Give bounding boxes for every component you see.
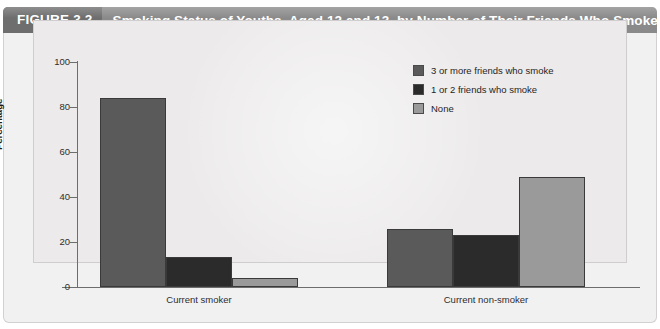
x-axis-category-label: Current smoker bbox=[139, 294, 259, 305]
legend-label: None bbox=[431, 103, 454, 114]
bar bbox=[232, 278, 298, 287]
legend-swatch-icon bbox=[413, 84, 424, 95]
legend-swatch-icon bbox=[413, 65, 424, 76]
bar bbox=[519, 177, 585, 287]
bar bbox=[166, 257, 232, 287]
legend-label: 3 or more friends who smoke bbox=[431, 65, 554, 76]
legend-swatch-icon bbox=[413, 103, 424, 114]
legend-label: 1 or 2 friends who smoke bbox=[431, 84, 537, 95]
bar bbox=[453, 235, 519, 287]
legend-item-3-or-more: 3 or more friends who smoke bbox=[413, 62, 554, 78]
x-axis-line bbox=[62, 287, 640, 288]
bar bbox=[387, 229, 453, 288]
legend-item-1-or-2: 1 or 2 friends who smoke bbox=[413, 81, 554, 97]
chart-legend: 3 or more friends who smoke 1 or 2 frien… bbox=[413, 62, 554, 119]
y-axis-tick bbox=[70, 287, 78, 288]
figure-container: FIGURE 3.2 Smoking Status of Youths, Age… bbox=[0, 0, 660, 329]
x-axis-category-label: Current non-smoker bbox=[426, 294, 546, 305]
bar bbox=[100, 98, 166, 287]
bar-series-group bbox=[0, 0, 660, 287]
legend-item-none: None bbox=[413, 100, 554, 116]
